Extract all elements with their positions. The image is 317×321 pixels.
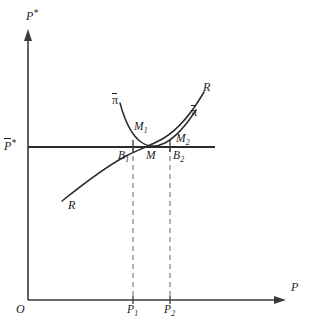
point-label-m1: M1: [134, 121, 148, 134]
pi-overline-right: π: [191, 106, 197, 118]
x-tick-label-p1: P1: [127, 304, 138, 317]
y-intercept-label: P*: [4, 139, 16, 152]
point-label-b1: B1: [118, 150, 129, 163]
r-curve-lower-label: R: [68, 199, 75, 211]
y-axis-superscript: *: [34, 8, 39, 18]
point-label-m: M: [146, 150, 156, 162]
pi-overline-left: π: [112, 94, 118, 106]
p-bar-overline: P: [4, 140, 11, 152]
y-intercept-superscript: *: [12, 138, 17, 148]
x-axis-label: P: [291, 281, 298, 293]
pi-bar-right-label: π: [191, 106, 197, 118]
economics-diagram-figure: P* P O P* P1 P2 π π R R M1 M2 M B1 B2: [0, 0, 317, 321]
x-axis-arrowhead: [274, 296, 286, 304]
point-label-b2: B2: [173, 150, 184, 163]
origin-label: O: [16, 303, 25, 315]
y-axis-arrowhead: [24, 29, 32, 41]
y-axis-label: P*: [26, 9, 38, 22]
point-label-m2: M2: [176, 133, 190, 146]
diagram-canvas: [0, 0, 317, 321]
r-curve-upper-label: R: [203, 81, 210, 93]
x-tick-label-p2: P2: [164, 304, 175, 317]
pi-bar-left-label: π: [112, 94, 118, 106]
